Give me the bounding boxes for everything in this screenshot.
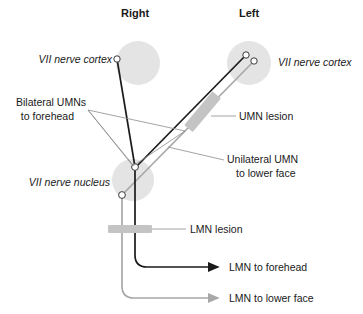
cortex-right-cell-node bbox=[114, 56, 120, 62]
unilateral-umn-label-line1: Unilateral UMN bbox=[227, 153, 298, 165]
lmn-forehead-label: LMN to forehead bbox=[229, 261, 307, 273]
cortex-left-upper-cell-node bbox=[243, 52, 249, 58]
bilateral-umn-label-line2: to forehead bbox=[21, 110, 74, 122]
header-right: Right bbox=[121, 7, 149, 19]
lmn-lesion-label: LMN lesion bbox=[190, 223, 243, 235]
diagram-canvas: Right Left VII nerve cortex VII nerv bbox=[0, 0, 363, 314]
cortex-right-label: VII nerve cortex bbox=[38, 53, 112, 65]
facial-nerve-diagram: Right Left VII nerve cortex VII nerv bbox=[0, 0, 363, 314]
lmn-lower-face-axon bbox=[122, 198, 218, 298]
cortex-left-label: VII nerve cortex bbox=[278, 56, 352, 68]
bilateral-umn-leader-return bbox=[133, 131, 185, 166]
unilateral-umn-label-line2: to lower face bbox=[236, 167, 296, 179]
cortex-left-lower-cell-node bbox=[251, 58, 257, 64]
lmn-lower-face-label: LMN to lower face bbox=[229, 292, 314, 304]
header-left: Left bbox=[239, 7, 260, 19]
bilateral-umn-label-line1: Bilateral UMNs bbox=[16, 96, 86, 108]
umn-lesion-label: UMN lesion bbox=[239, 110, 293, 122]
unilateral-umn-leader bbox=[168, 147, 224, 160]
cortex-right-disc bbox=[116, 41, 160, 85]
cortex-left-disc bbox=[227, 41, 271, 85]
nucleus-label: VII nerve nucleus bbox=[29, 176, 111, 188]
nucleus-lower-cell-node bbox=[119, 192, 126, 199]
lmn-lesion-bar bbox=[108, 225, 152, 233]
